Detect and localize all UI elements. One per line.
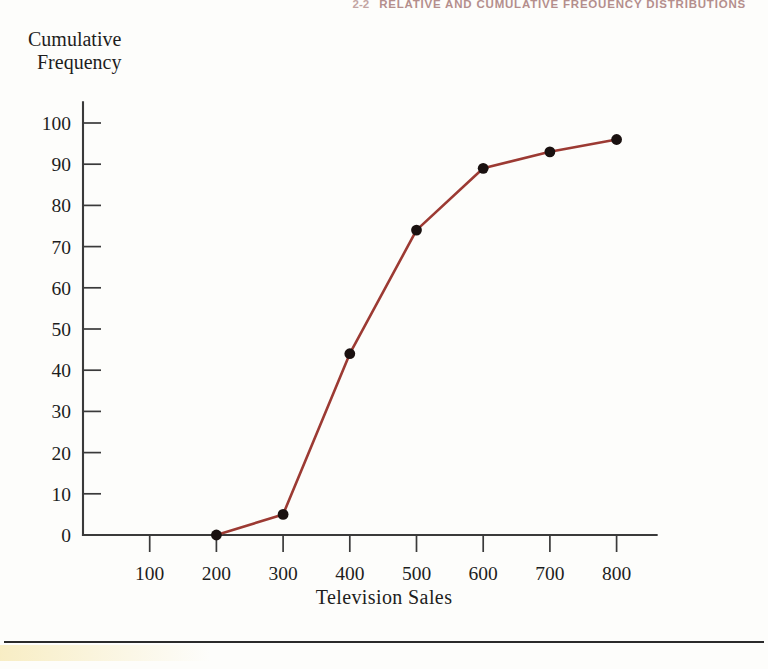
- x-axis-tick-label: 600: [469, 563, 498, 584]
- y-axis-tick-label: 0: [61, 525, 71, 546]
- data-series-cumulative-frequency: [211, 134, 622, 540]
- y-axis-tick-label: 20: [52, 443, 72, 464]
- y-axis-tick-label: 60: [52, 278, 72, 299]
- data-point-marker[interactable]: [211, 530, 222, 541]
- x-axis: 100200300400500600700800: [83, 535, 657, 584]
- x-axis-tick-label: 100: [135, 563, 164, 584]
- y-axis-tick-label: 100: [42, 113, 71, 134]
- chart-canvas: 0102030405060708090100 10020030040050060…: [0, 0, 768, 600]
- data-point-marker[interactable]: [611, 134, 622, 145]
- y-axis-tick-label: 40: [52, 360, 72, 381]
- page-bottom-tint: [0, 645, 210, 661]
- cumulative-frequency-chart: 0102030405060708090100 10020030040050060…: [0, 0, 768, 600]
- x-axis-tick-label: 300: [268, 563, 297, 584]
- data-line: [216, 139, 616, 535]
- y-axis-tick-label: 80: [52, 195, 72, 216]
- data-point-marker[interactable]: [344, 348, 355, 359]
- data-point-marker[interactable]: [411, 225, 422, 236]
- x-axis-tick-label: 800: [602, 563, 631, 584]
- x-axis-title-label: Television Sales: [316, 586, 453, 609]
- page-bottom-rule: [4, 641, 764, 643]
- data-point-marker[interactable]: [478, 163, 489, 174]
- x-axis-title: Television Sales: [0, 586, 768, 609]
- y-axis-tick-label: 30: [52, 401, 72, 422]
- data-point-marker[interactable]: [545, 146, 556, 157]
- x-axis-tick-label: 400: [335, 563, 364, 584]
- x-axis-tick-label: 200: [202, 563, 231, 584]
- y-axis-tick-label: 90: [52, 154, 72, 175]
- y-axis-tick-label: 10: [52, 484, 72, 505]
- x-axis-tick-label: 700: [535, 563, 564, 584]
- y-axis: 0102030405060708090100: [42, 102, 101, 546]
- y-axis-tick-label: 70: [52, 237, 72, 258]
- y-axis-tick-label: 50: [52, 319, 72, 340]
- x-axis-tick-label: 500: [402, 563, 431, 584]
- data-point-marker[interactable]: [278, 509, 289, 520]
